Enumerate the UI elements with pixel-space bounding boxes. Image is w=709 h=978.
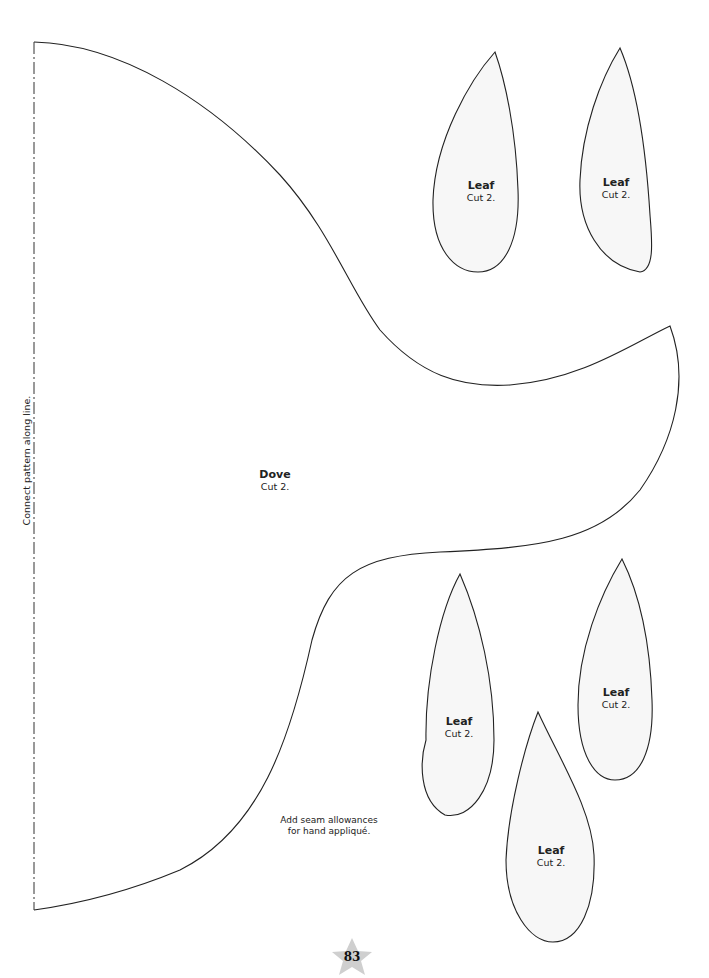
leaf-instruction: Cut 2. bbox=[521, 858, 581, 869]
leaf-shape-4 bbox=[578, 559, 652, 780]
leaf-title: Leaf bbox=[429, 716, 489, 729]
leaf-shape-5 bbox=[506, 712, 594, 942]
leaf-title: Leaf bbox=[521, 845, 581, 858]
leaf-instruction: Cut 2. bbox=[429, 729, 489, 740]
fold-line-label: Connect pattern along line. bbox=[21, 391, 32, 531]
leaf-label-2: Leaf Cut 2. bbox=[586, 177, 646, 201]
note-line-1: Add seam allowances bbox=[280, 815, 377, 825]
leaf-shape-2 bbox=[580, 48, 652, 272]
note-line-2: for hand appliqué. bbox=[288, 826, 371, 836]
leaf-label-3: Leaf Cut 2. bbox=[429, 716, 489, 740]
leaf-shape-3 bbox=[422, 574, 494, 816]
dove-instruction: Cut 2. bbox=[245, 482, 305, 493]
leaf-title: Leaf bbox=[586, 687, 646, 700]
page-number: 83 bbox=[332, 950, 372, 964]
leaf-instruction: Cut 2. bbox=[586, 190, 646, 201]
dove-label: Dove Cut 2. bbox=[245, 469, 305, 493]
leaf-label-4: Leaf Cut 2. bbox=[586, 687, 646, 711]
seam-allowance-note: Add seam allowances for hand appliqué. bbox=[264, 815, 394, 838]
leaf-label-5: Leaf Cut 2. bbox=[521, 845, 581, 869]
leaf-title: Leaf bbox=[586, 177, 646, 190]
leaf-title: Leaf bbox=[451, 180, 511, 193]
leaf-label-1: Leaf Cut 2. bbox=[451, 180, 511, 204]
leaf-instruction: Cut 2. bbox=[586, 700, 646, 711]
dove-title: Dove bbox=[245, 469, 305, 482]
leaf-instruction: Cut 2. bbox=[451, 193, 511, 204]
leaf-shape-1 bbox=[433, 52, 518, 272]
